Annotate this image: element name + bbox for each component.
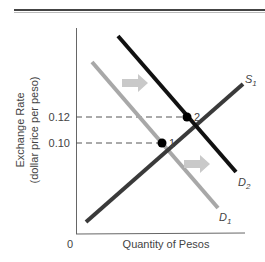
- shift-arrow-upper-icon: [122, 74, 148, 92]
- y-axis-subtitle: (dollar price per peso): [28, 77, 40, 184]
- equilibrium-point-2: [183, 113, 192, 122]
- x-axis-title: Quantity of Pesos: [123, 238, 210, 250]
- origin-label: 0: [67, 238, 73, 250]
- y-tick-0-10: 0.10: [49, 137, 70, 149]
- y-axis-title: Exchange Rate: [14, 92, 26, 167]
- equilibrium-point-1: [158, 139, 167, 148]
- y-tick-0-12: 0.12: [49, 111, 70, 123]
- x-axis: [76, 233, 245, 234]
- point-1-label: 1: [169, 137, 175, 149]
- point-2-label: 2: [194, 111, 200, 123]
- s1-label: S1: [245, 73, 257, 88]
- demand-curve-d1: [92, 62, 218, 208]
- exchange-rate-chart: 1 2 S1 D2 D1 0.12 0.10 Exchange Rate (do…: [0, 0, 265, 262]
- d2-label: D2: [238, 176, 251, 191]
- d1-label: D1: [219, 211, 231, 226]
